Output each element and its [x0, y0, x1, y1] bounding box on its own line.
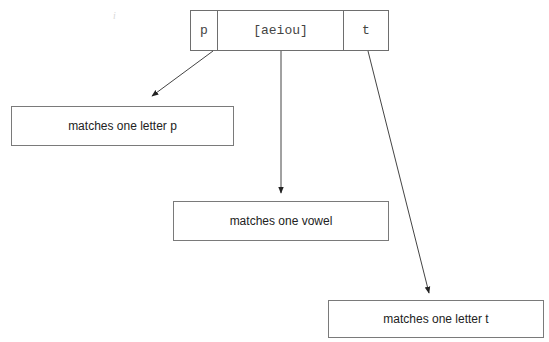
description-p: matches one letter p — [11, 106, 234, 146]
description-vowel: matches one vowel — [173, 201, 389, 241]
description-t: matches one letter t — [328, 300, 544, 338]
regex-diagram: i p [aeiou] t matches one letter p match… — [0, 0, 549, 342]
arrow-p — [152, 51, 213, 96]
arrow-t — [368, 51, 429, 293]
connector-arrows — [0, 0, 549, 342]
